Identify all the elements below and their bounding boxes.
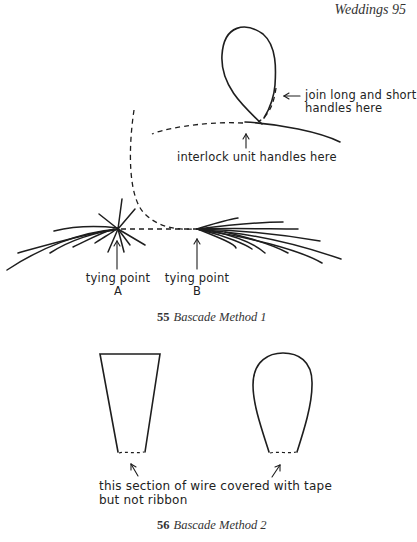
tying-a-letter: A (82, 285, 154, 298)
label-join-line-2: handles here (305, 102, 382, 115)
figure-55-caption: 55Bascade Method 1 (157, 310, 267, 325)
label-wire-note-line-2: but not ribbon (99, 494, 187, 507)
figure-56-caption: 56Bascade Method 2 (157, 518, 267, 533)
label-tying-b: tying point B (161, 272, 233, 298)
label-tying-a: tying point A (82, 272, 154, 298)
figure-56-title: Bascade Method 2 (174, 518, 267, 532)
label-wire-note-line-1: this section of wire covered with tape (99, 480, 332, 493)
figure-55-title: Bascade Method 1 (174, 310, 267, 324)
figure-55-number: 55 (157, 310, 170, 324)
tying-b-letter: B (161, 285, 233, 298)
label-interlock: interlock unit handles here (177, 151, 337, 164)
figure-56-number: 56 (157, 518, 170, 532)
